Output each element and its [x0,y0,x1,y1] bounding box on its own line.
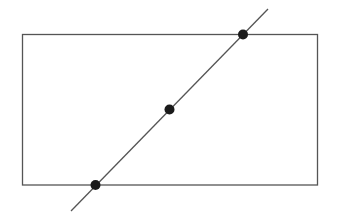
point-top-intersection [238,30,248,40]
point-midpoint [165,105,175,115]
point-bottom-intersection [91,180,101,190]
diagram-canvas [0,0,337,224]
